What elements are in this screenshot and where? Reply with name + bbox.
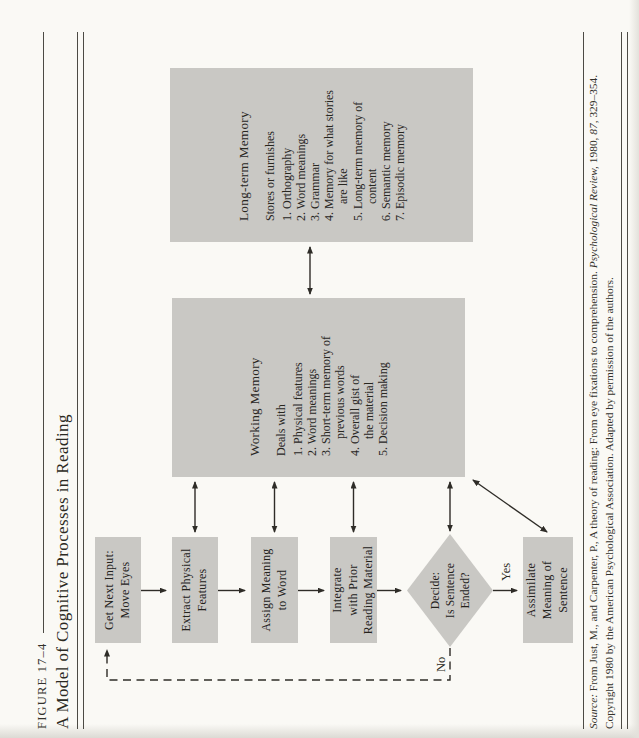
working-memory-list: 1. Physical features 2. Word meanings 3.… (291, 303, 390, 456)
list-item: 4. Overall gist of the material (348, 303, 376, 456)
list-item: 5. Decision making (376, 303, 390, 456)
figure-title: A Model of Cognitive Processes in Readin… (53, 414, 73, 729)
list-item: 2. Word meanings (305, 303, 319, 456)
list-item: 2. Word meanings (294, 68, 308, 221)
working-memory-subtitle: Deals with (274, 298, 289, 456)
no-label: No (434, 657, 449, 672)
list-item: 3. Grammar (308, 68, 322, 221)
long-term-memory-list: 1. Orthography 2. Word meanings 3. Gramm… (280, 68, 407, 221)
list-item: 1. Physical features (291, 303, 305, 456)
scanned-page: FIGURE 17–4 A Model of Cognitive Process… (0, 0, 639, 738)
source-rule (583, 32, 584, 729)
yes-label: Yes (499, 563, 514, 581)
source-year: 1980, (587, 135, 599, 166)
long-term-memory-title: Long-term Memory (236, 68, 252, 221)
list-item: 4. Memory for what stories are like (322, 68, 350, 221)
copyright-line: Copyright 1980 by the American Psycholog… (603, 29, 615, 729)
list-item: 3. Short-term memory of previous words (319, 303, 347, 456)
list-item: 7. Episodic memory (393, 68, 407, 221)
box-assimilate: Assimilate Meaning of Sentence (523, 537, 573, 643)
list-item: 1. Orthography (280, 68, 294, 221)
source-text: From Just, M., and Carpenter, P., A theo… (587, 268, 599, 694)
source-prefix: Source: (587, 694, 599, 729)
decide-diamond-label: Decide: Is Sentence Ended? (429, 543, 473, 638)
feedback-no-path (107, 648, 450, 680)
journal-name: Psychological Review, (587, 166, 599, 268)
figure-number-label: FIGURE 17–4 (35, 643, 50, 729)
source-pages: , 329–354. (587, 75, 599, 123)
long-term-memory-subtitle: Stores or furnishes (263, 68, 278, 221)
footer-double-rule (621, 32, 628, 729)
working-memory-title: Working Memory (247, 298, 263, 456)
source-citation: Source: From Just, M., and Carpenter, P.… (587, 29, 599, 729)
page-gutter-shadow (0, 724, 639, 738)
long-term-memory-box: Long-term Memory Stores or furnishes 1. … (170, 68, 473, 242)
header-rule (43, 32, 44, 633)
list-item: 6. Semantic memory (379, 68, 393, 221)
link-assimilate-wm (473, 480, 547, 532)
journal-volume: 87 (587, 123, 599, 134)
box-extract-physical-features: Extract Physical Features (172, 537, 218, 643)
working-memory-box: Working Memory Deals with 1. Physical fe… (172, 298, 465, 477)
box-get-next-input: Get Next Input: Move Eyes (95, 537, 141, 643)
list-item: 5. Long-term memory of content (351, 68, 379, 221)
page-edge-shadow (629, 0, 639, 738)
figure-canvas: FIGURE 17–4 A Model of Cognitive Process… (0, 0, 639, 738)
box-assign-meaning: Assign Meaning to Word (251, 537, 298, 643)
header-double-rule (77, 32, 84, 729)
box-integrate: Integrate with Prior Reading Material (330, 537, 377, 643)
